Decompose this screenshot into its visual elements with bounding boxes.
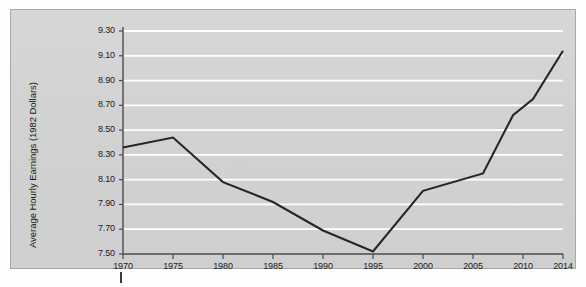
y-axis-tick-label: 8.30	[81, 149, 115, 159]
x-axis-tick-label: 1970	[107, 261, 139, 271]
y-axis-tick-label: 8.90	[81, 75, 115, 85]
x-axis-tick-label: 2010	[507, 261, 539, 271]
y-axis-tick-label: 8.50	[81, 124, 115, 134]
y-axis-tick-label: 8.70	[81, 99, 115, 109]
x-axis-tick-label: 2000	[407, 261, 439, 271]
y-axis-title: Average Hourly Earnings (1982 Dollars)	[27, 82, 38, 248]
x-axis-tick-label: 1975	[157, 261, 189, 271]
y-axis-tick-label: 7.70	[81, 223, 115, 233]
figure-canvas: 9.309.108.908.708.508.308.107.907.707.50…	[0, 0, 586, 287]
x-axis-tick-marks	[123, 254, 563, 259]
gridlines	[123, 31, 563, 229]
y-axis-tick-label: 8.10	[81, 174, 115, 184]
x-axis-tick-label: 1990	[307, 261, 339, 271]
y-axis-tick-label: 9.10	[81, 50, 115, 60]
x-axis-tick-label: 2005	[457, 261, 489, 271]
x-axis-tick-label: 1980	[207, 261, 239, 271]
x-axis-tick-label: 1985	[257, 261, 289, 271]
y-axis-tick-label: 7.90	[81, 198, 115, 208]
y-axis-tick-label: 9.30	[81, 25, 115, 35]
y-axis-tick-label: 7.50	[81, 248, 115, 258]
x-axis-tick-label: 2014	[547, 261, 579, 271]
x-axis-tick-label: 1995	[357, 261, 389, 271]
stray-scan-mark	[120, 272, 122, 283]
chart-frame: 9.309.108.908.708.508.308.107.907.707.50…	[10, 9, 576, 269]
